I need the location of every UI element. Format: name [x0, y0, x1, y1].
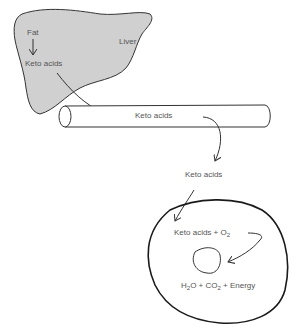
vessel-keto-acids-label: Keto acids: [135, 112, 172, 120]
reactant-subscript: 2: [227, 232, 230, 238]
transit-to-cell-arrow: [175, 190, 194, 221]
reaction-arrow: [228, 233, 262, 262]
product-text-3: + Energy: [221, 281, 255, 290]
reactant-label: Keto acids + O2: [174, 229, 230, 238]
product-label: H2O + CO2 + Energy: [181, 282, 255, 291]
reactant-text: Keto acids + O: [174, 228, 227, 237]
transit-keto-acids-label: Keto acids: [185, 171, 222, 179]
liver-keto-acids-label: Keto acids: [25, 60, 62, 68]
cell-organelle: [193, 248, 220, 274]
liver-label: Liver: [119, 38, 136, 46]
fat-label: Fat: [27, 29, 39, 37]
ketone-diagram: Fat Liver Keto acids Keto acids Keto aci…: [0, 0, 297, 333]
product-text-2: O + CO: [190, 281, 217, 290]
cell-membrane: [148, 200, 287, 323]
